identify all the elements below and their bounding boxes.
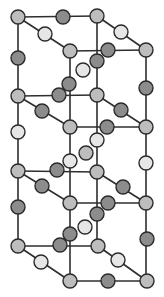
atom-dark — [62, 77, 76, 91]
atom-gray — [63, 196, 77, 210]
atom-dark — [90, 207, 104, 221]
atom-dark — [11, 200, 25, 214]
atom-gray — [91, 239, 105, 253]
atom-gray — [139, 43, 153, 57]
atom-gray — [11, 89, 25, 103]
atom-gray — [140, 274, 154, 288]
atom-dark — [114, 103, 128, 117]
atom-dark — [90, 54, 104, 68]
atom-light — [139, 156, 153, 170]
atom-dark — [52, 88, 66, 102]
atom-gray — [90, 88, 104, 102]
atom-dark — [11, 51, 25, 65]
atom-gray — [90, 9, 104, 23]
atom-light — [34, 255, 48, 269]
atom-light — [90, 133, 104, 147]
atom-dark — [101, 274, 115, 288]
atom-dark — [53, 238, 67, 252]
atom-dark — [35, 104, 49, 118]
atom-light — [78, 220, 92, 234]
atom-gray — [90, 165, 104, 179]
atom-dark — [139, 81, 153, 95]
atom-light — [111, 253, 125, 267]
atom-gray — [63, 44, 77, 58]
atom-dark — [101, 196, 115, 210]
atom-dark — [140, 232, 154, 246]
atom-dark — [50, 163, 64, 177]
atom-dark — [101, 43, 115, 57]
atom-light — [114, 25, 128, 39]
atom-gray — [11, 239, 25, 253]
atom-dark — [63, 227, 77, 241]
crystal-lattice-diagram: Crystal lattice structure — [0, 0, 164, 297]
atom-gray — [11, 164, 25, 178]
atom-gray — [11, 10, 25, 24]
atom-gray — [63, 120, 77, 134]
atom-dark — [56, 10, 70, 24]
atom-dark — [35, 179, 49, 193]
atom-dark — [100, 120, 114, 134]
atom-light — [38, 27, 52, 41]
atom-gray — [139, 120, 153, 134]
atom-light — [11, 125, 25, 139]
atom-gray — [63, 274, 77, 288]
atom-dark — [116, 180, 130, 194]
atom-light — [76, 63, 90, 77]
atom-gray — [139, 196, 153, 210]
atom-light — [63, 154, 77, 168]
atom-gray — [79, 146, 93, 160]
